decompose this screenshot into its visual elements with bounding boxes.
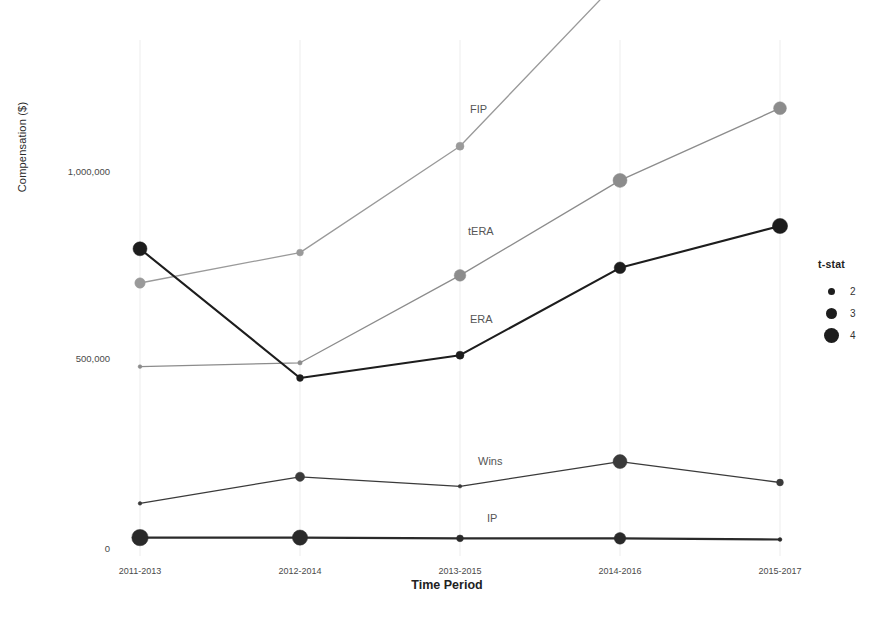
x-axis-tick-1: 2012-2014 (245, 566, 355, 576)
legend-label-2: 2 (850, 286, 856, 297)
series-label-ip: IP (487, 512, 497, 524)
x-axis-tick-0: 2011-2013 (85, 566, 195, 576)
legend-item-3: 3 (818, 302, 888, 324)
series-tera (138, 102, 786, 369)
y-axis-tick-500000: 500,000 (20, 353, 110, 364)
legend-title: t-stat (818, 258, 888, 270)
chart-figure: Compensation ($) Time Period 0 500,000 1… (0, 0, 894, 625)
series-label-tera: tERA (468, 225, 494, 237)
x-axis-title: Time Period (0, 578, 894, 592)
legend-item-4: 4 (818, 324, 888, 346)
x-axis-tick-3: 2014-2016 (565, 566, 675, 576)
chart-plot-area (0, 0, 894, 625)
series-ip (132, 529, 782, 545)
series-wins (138, 455, 783, 506)
legend: t-stat 2 3 4 (818, 258, 888, 346)
legend-label-3: 3 (850, 308, 856, 319)
series-label-era: ERA (470, 313, 493, 325)
series-fip (135, 0, 788, 288)
y-axis-tick-0: 0 (20, 543, 110, 554)
y-axis-tick-1000000: 1,000,000 (20, 166, 110, 177)
legend-dot-2-icon (818, 288, 844, 295)
series-label-wins: Wins (478, 455, 502, 467)
legend-item-2: 2 (818, 280, 888, 302)
legend-dot-4-icon (818, 328, 844, 343)
y-axis-title: Compensation ($) (16, 62, 28, 232)
legend-dot-3-icon (818, 308, 844, 319)
x-axis-tick-2: 2013-2015 (405, 566, 515, 576)
legend-label-4: 4 (850, 330, 856, 341)
x-axis-tick-4: 2015-2017 (725, 566, 835, 576)
series-label-fip: FIP (470, 103, 487, 115)
